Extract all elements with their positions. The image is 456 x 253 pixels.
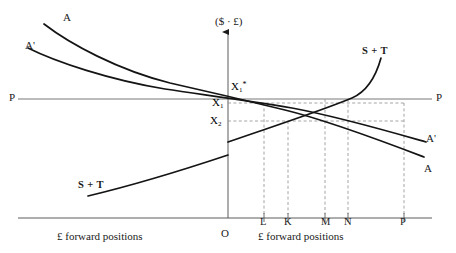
curve-label-A-prime-start: A' bbox=[25, 40, 35, 51]
curve-S-plus-T-lower bbox=[88, 155, 228, 196]
curve-label-A-end: A bbox=[424, 163, 432, 174]
x1-star-base: X bbox=[231, 80, 239, 92]
x2-base: X bbox=[210, 114, 218, 126]
diagram-svg bbox=[0, 0, 456, 253]
diagram-canvas: ($ · £) A A' A' A S + T S + T P P X1* X1… bbox=[0, 0, 456, 253]
curve-label-A-prime-end: A' bbox=[426, 133, 436, 144]
caption-right: £ forward positions bbox=[258, 231, 344, 242]
x1-sub: 1 bbox=[220, 102, 224, 110]
x2-sub: 2 bbox=[218, 120, 222, 128]
curve-label-S-plus-T-upper: S + T bbox=[362, 46, 388, 57]
equilibrium-label-x1: X1 bbox=[212, 96, 223, 110]
equilibrium-label-x2: X2 bbox=[210, 114, 221, 128]
equilibrium-label-x1-star: X1* bbox=[231, 80, 246, 94]
tick-label-K: K bbox=[284, 217, 292, 228]
price-line-label-right: P bbox=[436, 92, 442, 103]
price-line-label-left: P bbox=[9, 92, 15, 103]
x1-base: X bbox=[212, 96, 220, 108]
curve-S-plus-T-upper bbox=[228, 58, 381, 142]
caption-left: £ forward positions bbox=[57, 231, 143, 242]
tick-label-M: M bbox=[321, 217, 330, 228]
curve-label-A-start: A bbox=[63, 12, 71, 23]
tick-label-P: P bbox=[400, 217, 406, 228]
curve-A-prime bbox=[28, 48, 426, 142]
vertical-axis-label: ($ · £) bbox=[215, 16, 243, 27]
tick-label-L: L bbox=[260, 217, 266, 228]
tick-label-N: N bbox=[344, 217, 352, 228]
origin-label: O bbox=[221, 228, 229, 239]
x1-star-sup: * bbox=[242, 80, 246, 89]
curve-label-S-plus-T-lower: S + T bbox=[78, 180, 104, 191]
